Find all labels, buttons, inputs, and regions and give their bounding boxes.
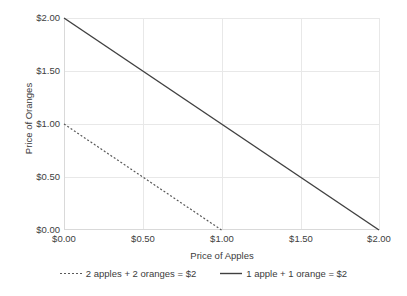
legend-item-solid[interactable]: 1 apple + 1 orange = $2 xyxy=(220,268,347,279)
chart-legend: 2 apples + 2 oranges = $2 1 apple + 1 or… xyxy=(0,268,407,279)
x-axis-title: Price of Apples xyxy=(64,250,380,261)
series-line-solid xyxy=(64,18,379,230)
legend-item-dashed[interactable]: 2 apples + 2 oranges = $2 xyxy=(60,268,196,279)
plot-area xyxy=(64,18,380,230)
x-tick-label: $0.50 xyxy=(113,233,173,244)
x-tick-label: $1.00 xyxy=(192,233,252,244)
x-axis-tick-labels: $0.00 $0.50 $1.00 $1.50 $2.00 xyxy=(64,233,380,247)
series-line-dashed xyxy=(64,124,222,230)
y-tick-label: $0.50 xyxy=(4,172,60,182)
y-axis-title: Price of Oranges xyxy=(23,69,34,169)
y-axis-title-container: Price of Oranges xyxy=(14,14,32,226)
budget-constraint-chart: $0.00 $0.50 $1.00 $1.50 $2.00 Price of O… xyxy=(0,0,407,296)
legend-label: 1 apple + 1 orange = $2 xyxy=(246,268,347,279)
x-tick-label: $2.00 xyxy=(349,233,407,244)
x-tick-label: $1.50 xyxy=(271,233,331,244)
dashed-line-icon xyxy=(60,270,82,277)
y-tick-label: $2.00 xyxy=(4,13,60,23)
x-tick-label: $0.00 xyxy=(34,233,94,244)
legend-label: 2 apples + 2 oranges = $2 xyxy=(86,268,196,279)
solid-line-icon xyxy=(220,270,242,277)
series-plot-layer xyxy=(64,18,380,230)
